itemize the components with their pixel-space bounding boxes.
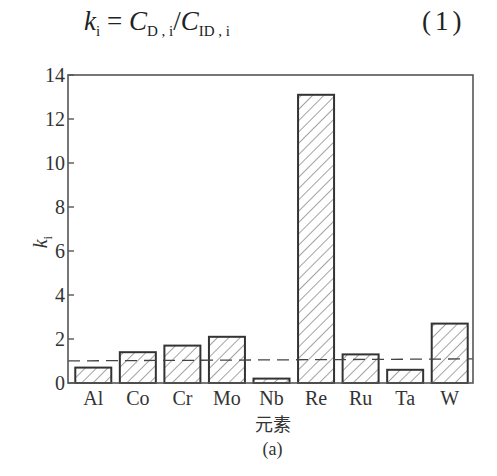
x-tick-label-cr: Cr xyxy=(172,387,192,409)
y-tick-label: 8 xyxy=(55,196,65,218)
y-axis-ticks: 02468101214 xyxy=(45,64,74,394)
bar-ru xyxy=(343,354,379,383)
bar-w xyxy=(432,324,468,383)
bars-group xyxy=(75,95,467,383)
bar-cr xyxy=(164,346,200,383)
y-tick-label: 2 xyxy=(55,328,65,350)
bar-ta xyxy=(387,370,423,383)
y-tick-label: 6 xyxy=(55,240,65,262)
plot-frame xyxy=(68,75,473,383)
bar-chart: 02468101214 AlCoCrMoNbReRuTaW ki 元素 (a) xyxy=(0,0,497,476)
bar-co xyxy=(120,352,156,383)
bar-re xyxy=(298,95,334,383)
y-tick-label: 14 xyxy=(45,64,65,86)
x-tick-label-al: Al xyxy=(83,387,103,409)
x-axis-label: 元素 xyxy=(255,414,291,435)
x-tick-label-ta: Ta xyxy=(395,387,415,409)
x-tick-label-co: Co xyxy=(126,387,149,409)
y-tick-label: 4 xyxy=(55,284,65,306)
x-tick-label-mo: Mo xyxy=(213,387,241,409)
y-tick-label: 12 xyxy=(45,108,65,130)
y-axis-label: ki xyxy=(29,235,55,248)
bar-al xyxy=(75,368,111,383)
x-tick-label-ru: Ru xyxy=(349,387,372,409)
sub-caption: (a) xyxy=(263,439,283,460)
y-tick-label: 0 xyxy=(55,372,65,394)
x-tick-label-w: W xyxy=(440,387,459,409)
x-axis-category-labels: AlCoCrMoNbReRuTaW xyxy=(83,387,459,409)
y-tick-label: 10 xyxy=(45,152,65,174)
x-tick-label-nb: Nb xyxy=(259,387,283,409)
x-tick-label-re: Re xyxy=(305,387,327,409)
